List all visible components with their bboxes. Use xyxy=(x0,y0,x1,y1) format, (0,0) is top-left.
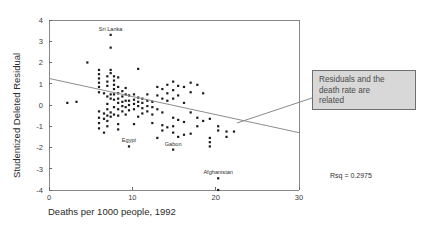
data-point xyxy=(156,94,158,96)
data-point xyxy=(128,104,130,106)
data-point xyxy=(128,145,130,147)
data-point xyxy=(117,128,119,130)
data-point xyxy=(66,102,68,104)
data-point xyxy=(166,126,168,128)
x-tick-label: 0 xyxy=(47,193,51,202)
y-tick-label: 0 xyxy=(39,101,43,110)
data-point xyxy=(110,69,112,71)
data-point xyxy=(106,75,108,77)
data-point xyxy=(183,86,185,88)
data-point xyxy=(161,98,163,100)
y-tick-label: 4 xyxy=(39,16,43,25)
data-point xyxy=(156,137,158,139)
data-point xyxy=(172,117,174,119)
y-tick-label: -4 xyxy=(36,186,43,195)
data-point xyxy=(113,93,115,95)
data-point xyxy=(190,133,192,135)
data-point xyxy=(172,89,174,91)
data-point xyxy=(121,95,123,97)
data-point xyxy=(177,94,179,96)
data-point xyxy=(172,132,174,134)
data-point xyxy=(225,130,227,132)
point-labels: Sri LankaEgyptGabonAfghanistan xyxy=(99,26,233,175)
data-point xyxy=(125,87,127,89)
data-point xyxy=(172,98,174,100)
x-tick-label: 10 xyxy=(128,193,136,202)
data-point xyxy=(128,100,130,102)
data-point xyxy=(183,134,185,136)
scatter-plot-figure: 43210-1-2-3-4 0102030 Sri LankaEgyptGabo… xyxy=(0,0,425,232)
data-point xyxy=(177,136,179,138)
data-point xyxy=(121,90,123,92)
data-point xyxy=(156,86,158,88)
data-point xyxy=(151,113,153,115)
data-point xyxy=(98,122,100,124)
data-point xyxy=(196,84,198,86)
x-tick-label: 30 xyxy=(295,193,303,202)
data-point xyxy=(225,136,227,138)
data-point xyxy=(133,93,135,95)
data-point xyxy=(190,82,192,84)
data-points xyxy=(66,34,235,191)
data-point xyxy=(137,105,139,107)
data-point xyxy=(98,73,100,75)
data-point xyxy=(110,116,112,118)
data-point xyxy=(202,120,204,122)
data-point xyxy=(137,101,139,103)
rsq-annotation: Rsq = 0.2975 xyxy=(330,172,372,180)
data-point xyxy=(133,103,135,105)
data-point xyxy=(103,112,105,114)
data-point xyxy=(75,101,77,103)
data-point xyxy=(117,102,119,104)
y-tick-label: -2 xyxy=(36,143,43,152)
data-point xyxy=(113,79,115,81)
data-point xyxy=(209,137,211,139)
x-axis-ticks: 0102030 xyxy=(47,187,303,202)
data-point xyxy=(183,102,185,104)
data-point xyxy=(110,72,112,74)
data-point xyxy=(121,101,123,103)
data-point xyxy=(125,113,127,115)
data-point xyxy=(151,122,153,124)
data-point xyxy=(86,61,88,63)
data-point xyxy=(172,125,174,127)
data-point xyxy=(161,124,163,126)
data-point xyxy=(141,112,143,114)
data-point xyxy=(209,141,211,143)
data-point xyxy=(98,69,100,71)
data-point xyxy=(106,125,108,127)
data-point xyxy=(125,100,127,102)
data-point xyxy=(117,108,119,110)
data-point xyxy=(133,108,135,110)
data-point xyxy=(146,93,148,95)
data-point xyxy=(121,105,123,107)
data-point xyxy=(117,76,119,78)
data-point xyxy=(161,129,163,131)
data-point xyxy=(103,132,105,134)
data-point xyxy=(166,84,168,86)
data-point xyxy=(161,111,163,113)
data-point xyxy=(172,81,174,83)
point-label: Egypt xyxy=(122,137,137,143)
point-label: Afghanistan xyxy=(203,169,233,175)
data-point xyxy=(217,189,219,191)
data-point xyxy=(110,111,112,113)
data-point xyxy=(103,118,105,120)
x-axis-title: Deaths per 1000 people, 1992 xyxy=(48,206,176,217)
data-point xyxy=(217,177,219,179)
data-point xyxy=(106,120,108,122)
y-tick-label: -3 xyxy=(36,165,43,174)
data-point xyxy=(98,127,100,129)
data-point xyxy=(146,105,148,107)
data-point xyxy=(98,86,100,88)
y-tick-label: 2 xyxy=(39,58,43,67)
data-point xyxy=(209,145,211,147)
data-point xyxy=(133,99,135,101)
y-tick-label: -1 xyxy=(36,122,43,131)
data-point xyxy=(233,130,235,132)
data-point xyxy=(117,123,119,125)
data-point xyxy=(117,115,119,117)
data-point xyxy=(106,95,108,97)
data-point xyxy=(113,84,115,86)
data-point xyxy=(117,98,119,100)
